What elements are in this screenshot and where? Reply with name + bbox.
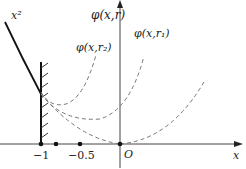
y-axis-arrow-icon [117, 0, 123, 8]
point-origin [118, 142, 123, 147]
label-x-squared: x² [11, 10, 22, 21]
tick-label-neg1: −1 [33, 150, 49, 161]
point-neg05 [78, 142, 83, 147]
label-origin: O [124, 149, 133, 160]
diagram-canvas: x² φ(x,r) φ(x,r₂) φ(x,r₁) O x −1 −0.5 [0, 0, 246, 169]
curve-phi-r2 [41, 55, 96, 105]
label-phi-r1: φ(x,r₁) [134, 28, 170, 39]
point-neg08 [54, 142, 59, 147]
curve-phi-ascending [120, 82, 204, 144]
point-neg1 [39, 142, 44, 147]
label-x-axis: x [233, 150, 239, 161]
curve-phi-descending [41, 94, 120, 144]
label-y-axis: φ(x,r) [91, 9, 125, 21]
curve-x-squared [5, 22, 41, 94]
x-axis-arrow-icon [234, 141, 243, 147]
wall-hatch [41, 62, 48, 144]
label-phi-r2: φ(x,r₂) [76, 42, 112, 53]
tick-label-neg05: −0.5 [68, 150, 95, 161]
diagram-svg [0, 0, 246, 169]
